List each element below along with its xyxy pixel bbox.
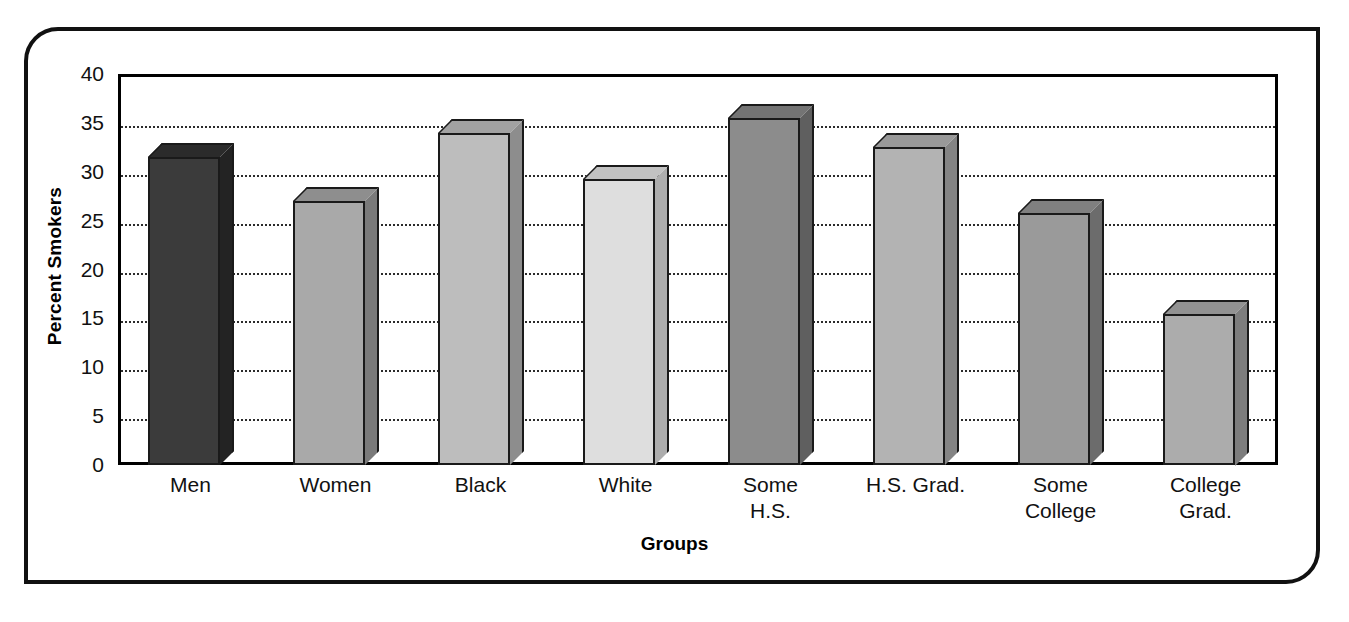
x-axis-title: Groups [0, 533, 1349, 555]
bar-front-face [293, 201, 365, 465]
bar [148, 143, 220, 465]
bar-chart: Percent Smokers 4035302520151050 MenWome… [0, 0, 1349, 622]
bar-side-face [1235, 300, 1249, 466]
x-axis-tick-label-line: College [988, 498, 1133, 524]
x-axis-tick-label-line: Men [118, 472, 263, 498]
y-axis-tick-label: 20 [18, 259, 104, 280]
bar-side-face [1090, 199, 1104, 465]
x-axis-tick-label-line: White [553, 472, 698, 498]
x-axis-tick-label-line: Grad. [1133, 498, 1278, 524]
x-axis-tick-label: White [553, 472, 698, 498]
bar-series [118, 74, 1278, 465]
bar [728, 104, 800, 465]
x-axis-tick-labels: MenWomenBlackWhiteSomeH.S.H.S. Grad.Some… [118, 472, 1278, 534]
bar [1018, 199, 1090, 465]
x-axis-tick-label-line: Some [698, 472, 843, 498]
x-axis-tick-label: Men [118, 472, 263, 498]
bar-front-face [148, 157, 220, 465]
y-axis-tick-label: 35 [18, 112, 104, 133]
y-axis-tick-label: 40 [18, 63, 104, 84]
x-axis-tick-label-line: Some [988, 472, 1133, 498]
bar-front-face [1018, 213, 1090, 465]
bar-side-face [800, 104, 814, 465]
bar [873, 133, 945, 465]
bar-front-face [1163, 314, 1235, 466]
x-axis-tick-label-line: Black [408, 472, 553, 498]
bar-side-face [220, 143, 234, 465]
x-axis-tick-label: CollegeGrad. [1133, 472, 1278, 524]
x-axis-tick-label: SomeH.S. [698, 472, 843, 524]
x-axis-tick-label-line: H.S. [698, 498, 843, 524]
y-axis-tick-label: 25 [18, 210, 104, 231]
bar-top-face [1163, 300, 1249, 314]
bar-front-face [728, 118, 800, 465]
x-axis-tick-label: H.S. Grad. [843, 472, 988, 498]
bar-side-face [365, 187, 379, 465]
y-axis-tick-label: 10 [18, 356, 104, 377]
bar [1163, 300, 1235, 466]
x-axis-tick-label-line: Women [263, 472, 408, 498]
bar-front-face [583, 179, 655, 465]
bar [583, 165, 655, 465]
bar-side-face [655, 165, 669, 465]
x-axis-tick-label: Black [408, 472, 553, 498]
bar-side-face [510, 119, 524, 465]
x-axis-tick-label-line: College [1133, 472, 1278, 498]
x-axis-tick-label: Women [263, 472, 408, 498]
x-axis-tick-label-line: H.S. Grad. [843, 472, 988, 498]
bar-front-face [873, 147, 945, 465]
y-axis-tick-label: 0 [18, 454, 104, 475]
y-axis-tick-label: 5 [18, 405, 104, 426]
bar [293, 187, 365, 465]
x-axis-tick-label: SomeCollege [988, 472, 1133, 524]
y-axis-tick-label: 30 [18, 161, 104, 182]
y-axis-tick-label: 15 [18, 307, 104, 328]
bar [438, 119, 510, 465]
bar-front-face [438, 133, 510, 465]
bar-side-face [945, 133, 959, 465]
